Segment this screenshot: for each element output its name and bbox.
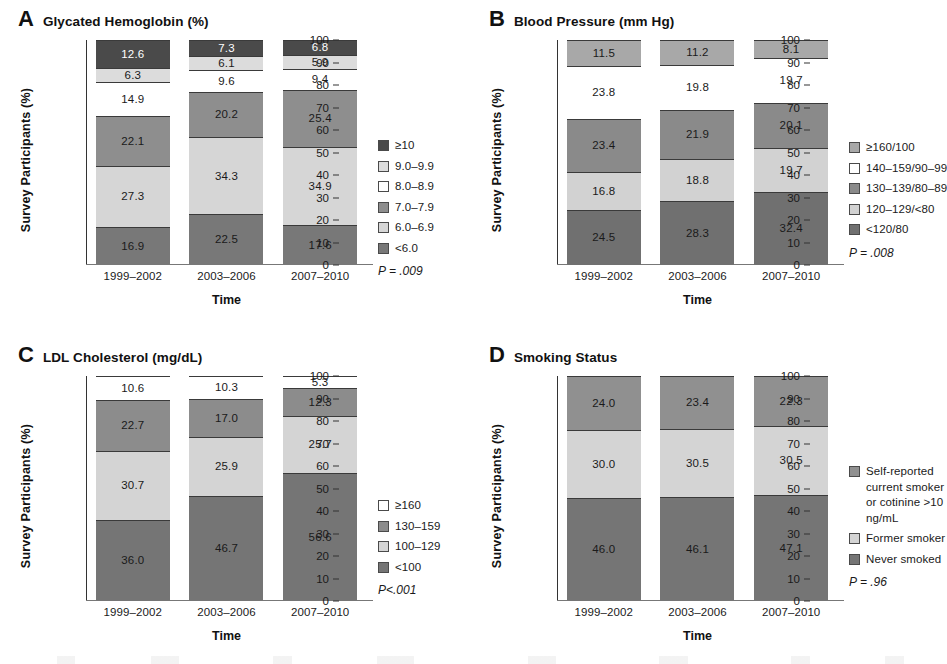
legend-item[interactable]: Former smoker [849, 531, 945, 547]
bar-segment-value: 56.6 [309, 532, 332, 544]
bar-segment-value: 22.3 [780, 396, 803, 408]
bar-segment: 36.0 [96, 520, 170, 601]
stacked-bar-1: 11.523.823.416.824.5 [567, 40, 641, 265]
bar-segment-value: 47.1 [780, 543, 803, 555]
stacked-bar-2: 11.219.821.918.828.3 [660, 40, 734, 265]
panel-d: D Smoking Status Survey Participants (%)… [471, 336, 942, 664]
bar-segment-value: 19.8 [686, 82, 709, 94]
panel-d-plot: Survey Participants (%) 24.030.046.023.4… [523, 376, 838, 601]
y-tick-label: 10 [301, 573, 333, 585]
legend-item[interactable]: Self-reported current smoker or cotinine… [849, 464, 945, 526]
y-tick-label: 60 [301, 124, 333, 136]
panel-a-x-tick-labels: 1999–20022003–20062007–2010 [86, 270, 367, 282]
bar-segment-value: 32.4 [780, 223, 803, 235]
legend-item[interactable]: ≥10 [378, 138, 434, 154]
legend-swatch-icon [378, 140, 389, 151]
bar-segment-value: 28.3 [686, 228, 709, 240]
y-tick-mark [333, 488, 339, 489]
x-tick-label: 1999–2002 [567, 270, 641, 282]
bar-segment: 6.8 [283, 40, 357, 55]
bar-segment: 23.8 [567, 66, 641, 120]
y-tick-label: 0 [772, 595, 804, 607]
y-tick-mark [804, 197, 810, 198]
legend-label: <100 [395, 560, 421, 576]
bar-segment-value: 34.3 [215, 171, 238, 183]
legend-item[interactable]: <6.0 [378, 241, 434, 257]
bar-segment: 19.8 [660, 65, 734, 110]
legend-swatch-icon [378, 161, 389, 172]
legend-label: 100–129 [395, 539, 440, 555]
panel-a-title: Glycated Hemoglobin (%) [43, 14, 209, 29]
bar-segment: 16.8 [567, 172, 641, 210]
legend-item[interactable]: 6.0–6.9 [378, 220, 434, 236]
y-tick-label: 0 [301, 595, 333, 607]
y-tick-label: 50 [301, 483, 333, 495]
legend-item[interactable]: ≥160/100 [849, 140, 947, 156]
bar-segment-value: 24.0 [592, 398, 615, 410]
legend-label: 9.0–9.9 [395, 159, 434, 175]
panel-c: C LDL Cholesterol (mg/dL) Survey Partici… [0, 336, 471, 664]
legend-item[interactable]: <100 [378, 560, 440, 576]
bar-segment-value: 7.3 [218, 43, 235, 55]
legend-swatch-icon [849, 224, 860, 235]
legend-item[interactable]: 130–159 [378, 519, 440, 535]
legend-item[interactable]: ≥160 [378, 498, 440, 514]
y-tick-mark [333, 265, 339, 266]
p-value-annotation: P = .009 [378, 263, 434, 279]
panel-b-x-tick-labels: 1999–20022003–20062007–2010 [557, 270, 838, 282]
bar-segment-value: 25.9 [215, 461, 238, 473]
legend-label: 140–159/90–99 [866, 161, 947, 177]
legend-item[interactable]: 130–139/80–89 [849, 181, 947, 197]
panel-a-legend: ≥109.0–9.98.0–8.97.0–7.96.0–6.9<6.0P = .… [378, 138, 434, 279]
bar-segment-value: 19.7 [780, 75, 803, 87]
bar-segment: 24.0 [567, 376, 641, 430]
y-tick-label: 40 [772, 505, 804, 517]
panel-c-x-tick-labels: 1999–20022003–20062007–2010 [86, 606, 367, 618]
y-tick-mark [804, 85, 810, 86]
y-tick-mark [333, 601, 339, 602]
bar-segment-value: 20.1 [780, 120, 803, 132]
bar-segment: 24.5 [567, 210, 641, 265]
y-tick-mark [804, 265, 810, 266]
bar-segment-value: 25.4 [309, 113, 332, 125]
panel-b-plot: Survey Participants (%) 11.523.823.416.8… [523, 40, 838, 265]
y-tick-label: 0 [772, 259, 804, 271]
legend-item[interactable]: 9.0–9.9 [378, 159, 434, 175]
y-tick-label: 30 [772, 192, 804, 204]
stacked-bar-1: 10.622.730.736.0 [96, 376, 170, 601]
legend-item[interactable]: 140–159/90–99 [849, 161, 947, 177]
bar-segment-value: 6.3 [125, 70, 142, 82]
bar-segment-value: 17.0 [215, 413, 238, 425]
bar-segment-value: 14.9 [121, 94, 144, 106]
y-tick-mark [804, 533, 810, 534]
legend-item[interactable]: 100–129 [378, 539, 440, 555]
y-tick-label: 60 [301, 460, 333, 472]
panel-d-y-axis [523, 376, 557, 601]
bar-segment-value: 5.3 [312, 377, 329, 388]
legend-item[interactable]: 8.0–8.9 [378, 179, 434, 195]
page-bottom-text-artifact [0, 656, 942, 664]
legend-swatch-icon [378, 243, 389, 254]
legend-item[interactable]: 120–129/<80 [849, 202, 947, 218]
legend-item[interactable]: 7.0–7.9 [378, 200, 434, 216]
y-tick-mark [804, 488, 810, 489]
legend-label: Never smoked [866, 552, 941, 568]
y-tick-mark [333, 62, 339, 63]
legend-item[interactable]: <120/80 [849, 222, 947, 238]
bar-segment: 11.2 [660, 40, 734, 65]
bar-segment: 22.7 [96, 400, 170, 451]
bar-segment-value: 22.5 [215, 234, 238, 246]
bar-segment: 5.9 [283, 55, 357, 68]
legend-item[interactable]: Never smoked [849, 552, 945, 568]
legend-label: ≥10 [395, 138, 414, 154]
y-tick-mark [804, 130, 810, 131]
stacked-bar-1: 24.030.046.0 [567, 376, 641, 601]
x-tick-label: 2003–2006 [660, 606, 734, 618]
y-tick-label: 30 [772, 528, 804, 540]
bar-segment: 10.6 [96, 376, 170, 400]
bar-segment: 5.3 [283, 376, 357, 388]
legend-swatch-icon [378, 521, 389, 532]
legend-label: 7.0–7.9 [395, 200, 434, 216]
bar-segment: 17.0 [189, 399, 263, 437]
legend-label: 8.0–8.9 [395, 179, 434, 195]
